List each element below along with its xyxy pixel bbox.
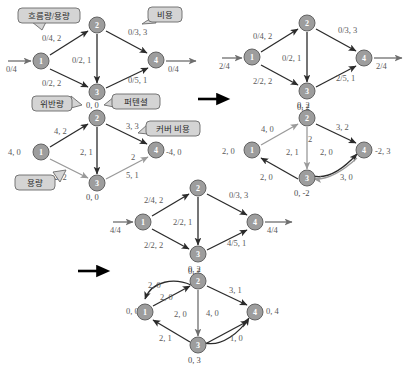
edge-label-4-3: 3, 0	[340, 172, 353, 182]
figure-canvas: 0/4 0/4 0/4, 2 0/2, 2 0/2, 1 0/3, 3 0/5,…	[0, 0, 405, 372]
potential-node-1: 2, 0	[222, 146, 235, 156]
network-flow-figure: 0/4 0/4 0/4, 2 0/2, 2 0/2, 1 0/3, 3 0/5,…	[0, 0, 405, 372]
edge-label-3-4: 2, 0	[320, 147, 333, 157]
node-3-label: 3	[305, 87, 309, 96]
node-1-label: 1	[143, 308, 147, 317]
node-2-label: 2	[196, 277, 200, 286]
edge-label-1-3: 2/2, 2	[144, 240, 163, 250]
node-1-label: 1	[39, 148, 43, 157]
callout-cost-label: 비용	[157, 10, 173, 20]
callout-capacity-label: 용량	[27, 178, 43, 188]
node-1-label: 1	[39, 57, 43, 66]
callout-cover-cost: 커버 비용	[138, 121, 200, 136]
node-3-label: 3	[196, 250, 200, 259]
node-4-label: 4	[154, 146, 158, 155]
edge-label-1-2: 2, 0	[160, 292, 173, 302]
edge-label-1-3: 2/2, 2	[253, 76, 272, 86]
callout-violation-label: 위반량	[40, 99, 64, 109]
edge-label-1-3: 0/2, 2	[42, 78, 61, 88]
potential-node-3: 0, -2	[294, 188, 310, 198]
edge-label-2-3: 0/2, 1	[282, 53, 301, 63]
edge-label-3-4: 4/5, 1	[227, 238, 246, 248]
potential-node-2: 0, 0	[86, 100, 99, 110]
edge-label-2-3: 2/2, 1	[173, 217, 192, 227]
edge-label-2-4: 0/3, 3	[128, 27, 147, 37]
edge-label-2-4: 3, 1	[229, 285, 242, 295]
edge-label-2-4: 3, 2	[336, 122, 349, 132]
potential-node-1: 4, 0	[8, 147, 21, 157]
node-4-label: 4	[362, 146, 366, 155]
edge-label-3-4: 5, 1	[126, 170, 139, 180]
callout-flow-capacity-label: 흐름량/용량	[28, 11, 70, 21]
panel-bottom: 0, 0 0, 2 0, 3 0, 4 2, 0 2, 0 2, 0 2, 1 …	[126, 266, 280, 365]
edge-label-3-1: 2, 0	[260, 172, 273, 182]
callout-violation: 위반량	[32, 96, 82, 111]
edge-label-3-1: 2, 1	[159, 333, 172, 343]
edge-label-2-3: 2, 1	[80, 147, 93, 157]
panel-top-left: 0/4 0/4 0/4, 2 0/2, 2 0/2, 1 0/3, 3 0/5,…	[6, 17, 196, 100]
node-4-label: 4	[362, 54, 366, 63]
edge-label-extra: 2	[308, 134, 312, 144]
potential-node-4: -2, 3	[375, 146, 391, 156]
edge-label-1-2: 4, 2	[54, 126, 67, 136]
node-2-label: 2	[95, 21, 99, 30]
potential-node-4: 0, 4	[266, 306, 280, 316]
node-4-label: 4	[253, 308, 257, 317]
edge-label-extra: 2	[131, 152, 135, 162]
edge-label-2-3: 2, 1	[286, 147, 299, 157]
edge-label-2-1: 2, 0	[148, 280, 161, 290]
source-flow-label: 2/4	[219, 61, 231, 71]
node-1-label: 1	[250, 53, 254, 62]
callout-potential: 퍼텐셜	[104, 94, 160, 109]
node-2-label: 2	[95, 114, 99, 123]
callout-cover-cost-label: 커버 비용	[156, 124, 190, 134]
edge-label-3-4a: 4, 0	[206, 308, 219, 318]
edge-label-1-2: 2/4, 2	[144, 195, 163, 205]
sink-flow-label: 0/4	[168, 64, 180, 74]
edge-label-2-3: 0/2, 1	[72, 55, 91, 65]
edge-label-3-4: 2/5, 1	[336, 73, 355, 83]
node-2-label: 2	[305, 19, 309, 28]
edge-label-2-4: 3, 3	[126, 121, 139, 131]
node-2-label: 2	[196, 184, 200, 193]
node-4-label: 4	[253, 218, 257, 227]
node-3-label: 3	[95, 88, 99, 97]
edge-label-2-4: 0/3, 3	[338, 25, 357, 35]
callout-capacity: 용량	[15, 170, 66, 190]
node-1-label: 1	[250, 146, 254, 155]
edge-label-2-4: 0/3, 3	[229, 190, 248, 200]
panel-mid-right: 2, 0 0, 2 0, -2 -2, 3 4, 0 2, 0 2, 1 3, …	[222, 100, 391, 198]
edge-label-3-4: 0/5, 1	[128, 75, 147, 85]
potential-node-2: 0, 2	[297, 100, 310, 110]
edge-label-1-2: 0/4, 2	[253, 31, 272, 41]
source-flow-label: 4/4	[110, 225, 122, 235]
callout-flow-capacity: 흐름량/용량	[18, 8, 80, 30]
callout-cost: 비용	[142, 7, 182, 24]
edge-label-3-4b: 1, 0	[230, 333, 243, 343]
node-3-label: 3	[95, 179, 99, 188]
node-1-label: 1	[141, 218, 145, 227]
node-2-label: 2	[305, 114, 309, 123]
panel-bottom-mid: 4/4 4/4 2/4, 2 2/2, 2 2/2, 1 0/3, 3 4/5,…	[110, 180, 292, 274]
edge-label-1-2: 4, 0	[261, 124, 274, 134]
edge-label-2-3: 2, 0	[174, 309, 187, 319]
panel-top-right: 2/4 2/4 0/4, 2 2/2, 2 0/2, 1 0/3, 3 2/5,…	[219, 15, 402, 112]
node-3-label: 3	[196, 341, 200, 350]
source-flow-label: 0/4	[6, 64, 18, 74]
potential-node-3: 0, 0	[86, 192, 99, 202]
edge-label-1-2: 0/4, 2	[42, 33, 61, 43]
callout-potential-label: 퍼텐셜	[124, 97, 148, 107]
node-3-label: 3	[305, 174, 309, 183]
sink-flow-label: 4/4	[267, 225, 279, 235]
potential-node-3: 0, 3	[188, 355, 201, 365]
potential-node-4: -4, 0	[166, 147, 182, 157]
node-4-label: 4	[154, 56, 158, 65]
sink-flow-label: 2/4	[376, 61, 388, 71]
